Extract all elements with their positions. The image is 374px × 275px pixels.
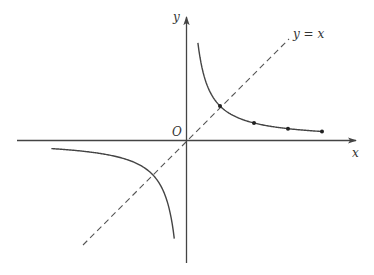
- y-axis-label: y: [173, 11, 180, 23]
- marked-point: [320, 130, 324, 134]
- x-axis-label: x: [352, 147, 359, 159]
- marked-point: [252, 121, 256, 125]
- marked-point: [218, 104, 222, 108]
- function-graph: [0, 0, 374, 275]
- hyperbola-branch-negative: [51, 149, 174, 239]
- marked-points: [218, 104, 324, 134]
- line-label: y = x: [293, 28, 324, 40]
- marked-point: [286, 127, 290, 131]
- hyperbola-branch-positive: [198, 43, 322, 132]
- origin-label: O: [172, 126, 182, 138]
